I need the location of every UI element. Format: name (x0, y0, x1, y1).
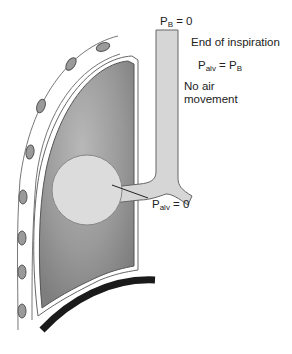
lung-diagram (0, 0, 292, 354)
label-movement: movement (184, 93, 238, 106)
alveolus (52, 155, 122, 225)
label-relation: Palv = PB (198, 59, 242, 75)
label-end-of-inspiration: End of inspiration (191, 36, 280, 49)
label-p-alv: Palv = 0 (152, 198, 189, 214)
label-p-b: PB = 0 (160, 15, 193, 31)
label-no-air: No air (184, 80, 215, 93)
